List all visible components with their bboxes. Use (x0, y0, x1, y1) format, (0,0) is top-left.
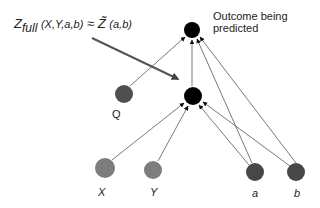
node-q (115, 85, 133, 103)
edge-x-mediator (112, 103, 184, 160)
annotation-arrow (92, 38, 178, 79)
formula-z-tilde: Z̃ (98, 16, 106, 31)
edge-a-mediator (199, 105, 249, 165)
node-a (246, 163, 264, 181)
formula-approx: ≈ (87, 16, 94, 31)
node-mediator (184, 87, 202, 105)
edge-y-mediator (158, 106, 188, 161)
node-b (287, 163, 305, 181)
formula-annotation: Zfull (X,Y,a,b) ≈ Z̃ (a,b) (14, 16, 132, 35)
label-y: Y (150, 186, 157, 198)
label-b: b (294, 187, 300, 199)
label-a: a (252, 187, 258, 199)
node-x (95, 158, 115, 178)
formula-z: Z (14, 16, 22, 31)
edge-b-mediator (203, 102, 290, 166)
label-q: Q (112, 108, 121, 120)
node-outcome (184, 22, 200, 38)
edge-b-outcome (200, 37, 296, 163)
edge-a-outcome (197, 39, 252, 163)
formula-sub: full (22, 21, 37, 35)
outcome-label-line2: predicted (213, 22, 258, 34)
formula-tilde-args: (a,b) (109, 18, 132, 30)
label-x: X (98, 186, 105, 198)
outcome-label-line1: Outcome being (213, 10, 288, 22)
node-y (144, 161, 162, 179)
formula-args: (X,Y,a,b) (41, 18, 83, 30)
